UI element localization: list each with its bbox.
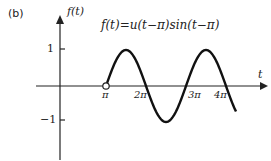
y-axis-label: f(t) bbox=[67, 5, 84, 18]
xtick-pi: π bbox=[102, 89, 109, 100]
xtick-3pi: 3π bbox=[188, 89, 201, 100]
panel-label: (b) bbox=[8, 7, 24, 20]
ytick-1: 1 bbox=[47, 42, 54, 55]
formula-label: f(t)=u(t−π)sin(t−π) bbox=[101, 18, 219, 32]
x-axis-arrow-icon bbox=[260, 82, 268, 90]
ytick-neg1: −1 bbox=[40, 113, 56, 126]
xtick-4pi: 4π bbox=[214, 89, 227, 100]
y-axis-arrow-icon bbox=[56, 15, 64, 24]
xtick-2pi: 2π bbox=[134, 89, 147, 100]
x-axis-label: t bbox=[258, 68, 262, 81]
figure: (b) f(t) f(t)=u(t−π)sin(t−π) t 1 −1 π 2π… bbox=[0, 0, 271, 161]
